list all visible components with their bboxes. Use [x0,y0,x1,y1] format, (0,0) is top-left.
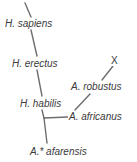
taxon-label-h-habilis: H. habilis [19,98,62,109]
branch-sapiens-to-erectus [31,30,37,56]
branch-habilis-to-junction [42,110,44,118]
taxon-label-a-robustus: A. robustus [70,81,123,92]
taxon-label-a-africanus: A. africanus [68,111,123,122]
branch-sapiens [25,3,31,17]
branch-robustus-to-extinct [102,66,113,80]
phylogenetic-tree-diagram: H. sapiens H. erectus H. habilis A.* afa… [0,0,137,162]
branch-africanus-to-robustus [75,94,90,110]
branch-junction-to-africanus [44,117,68,118]
taxon-label-h-sapiens: H. sapiens [4,18,53,29]
taxon-label-a-afarensis: A.* afarensis [29,146,88,157]
branch-trunk-root [44,118,47,143]
extinction-marker-label: X [110,55,119,66]
taxon-label-h-erectus: H. erectus [11,58,59,69]
branch-erectus-to-habilis [37,70,42,96]
